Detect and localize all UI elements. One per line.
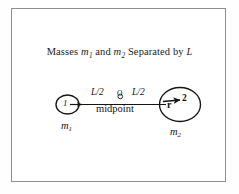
midpoint-origin-label: O <box>117 90 122 98</box>
left-half-distance-label: L/2 <box>91 88 104 98</box>
midpoint-caption-label: midpoint <box>96 104 134 115</box>
r-vector-label: r <box>167 100 171 110</box>
r-vector-arrow <box>163 100 180 102</box>
right-mass-symbol-label: m2 <box>170 127 181 139</box>
left-mass-symbol-subscript: 1 <box>69 125 73 133</box>
left-mass-symbol-label: m1 <box>61 121 72 133</box>
right-mass-symbol-subscript: 2 <box>178 131 182 139</box>
right-mass-number-label: 2 <box>182 94 187 104</box>
left-mass-number-label: 1 <box>63 99 68 108</box>
left-mass-symbol: m <box>61 120 69 131</box>
right-half-distance-label: L/2 <box>132 88 145 98</box>
figure-root: Masses m1 and m2 Separated by L 1 r 2 L/… <box>0 0 239 194</box>
right-mass-symbol: m <box>170 126 178 137</box>
